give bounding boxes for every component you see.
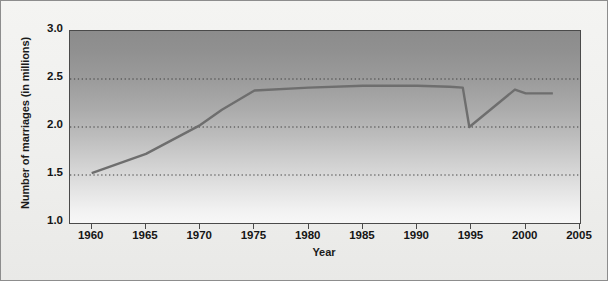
- data-line: [92, 86, 553, 173]
- x-tick-label: 1985: [338, 229, 386, 241]
- x-tick-label: 2005: [555, 229, 603, 241]
- x-tick-label: 1980: [284, 229, 332, 241]
- y-tick-label: 2.0: [23, 118, 63, 130]
- y-tick-label: 1.5: [23, 166, 63, 178]
- x-tick-label: 1995: [446, 229, 494, 241]
- x-axis-title: Year: [69, 246, 579, 258]
- plot-area: [69, 30, 581, 224]
- x-tick-label: 1990: [392, 229, 440, 241]
- x-tick-label: 1965: [121, 229, 169, 241]
- y-tick-label: 3.0: [23, 22, 63, 34]
- chart-canvas: Number of marriages (in millions) 3.02.5…: [1, 1, 607, 280]
- chart-figure: Number of marriages (in millions) 3.02.5…: [0, 0, 608, 281]
- x-tick-label: 1975: [229, 229, 277, 241]
- x-tick-label: 1970: [175, 229, 223, 241]
- plot-svg: [70, 31, 580, 223]
- x-tick-label: 1960: [67, 229, 115, 241]
- x-tick-label: 2000: [501, 229, 549, 241]
- x-axis-tick-labels: 1960196519701975198019851990199520002005: [1, 229, 608, 247]
- y-tick-label: 2.5: [23, 70, 63, 82]
